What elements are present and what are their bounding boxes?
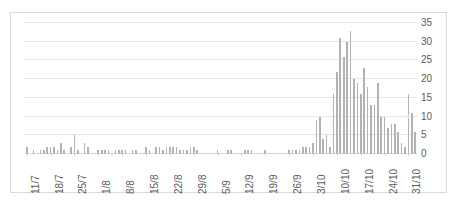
x-tick-label-22-8: 22/8 (174, 175, 184, 194)
bar (292, 150, 294, 154)
bar (40, 150, 42, 154)
bar (183, 150, 185, 154)
bar (370, 105, 372, 154)
bar (316, 120, 318, 154)
x-tick-label-26-9: 26/9 (293, 175, 303, 194)
bar (353, 79, 355, 154)
bar (179, 150, 181, 154)
x-tick-label-24-10: 24/10 (389, 169, 399, 194)
bar (125, 150, 127, 154)
x-tickmark (265, 153, 266, 156)
bar (132, 150, 134, 154)
x-tick-label-3-10: 3/10 (317, 175, 327, 194)
y-tick-label-20: 20 (421, 74, 447, 84)
bar (360, 94, 362, 154)
bar (401, 143, 403, 154)
x-tickmark (241, 153, 242, 156)
bar (414, 132, 416, 154)
x-tickmark (385, 153, 386, 156)
x-tick-label-25-7: 25/7 (78, 175, 88, 194)
x-tickmark (122, 153, 123, 156)
bar (104, 150, 106, 154)
x-tickmark (313, 153, 314, 156)
bar (70, 147, 72, 154)
bar (176, 147, 178, 154)
bar (357, 83, 359, 154)
bar (380, 117, 382, 154)
x-tick-label-12-9: 12/9 (245, 175, 255, 194)
bar (190, 147, 192, 154)
bar (309, 147, 311, 154)
y-tick-label-5: 5 (421, 130, 447, 140)
x-tickmark (146, 153, 147, 156)
bar (329, 147, 331, 154)
bar (149, 150, 151, 154)
x-tick-label-17-10: 17/10 (365, 169, 375, 194)
x-tick-label-8-8: 8/8 (126, 180, 136, 194)
x-tickmark (218, 153, 219, 156)
x-tickmark (98, 153, 99, 156)
bar (118, 150, 120, 154)
bar (404, 147, 406, 154)
bar (411, 113, 413, 154)
x-tickmark (27, 153, 28, 156)
x-tick-label-1-8: 1/8 (102, 180, 112, 194)
bar (60, 143, 62, 154)
y-axis: 05101520253035 (421, 13, 451, 163)
bar (166, 147, 168, 154)
bar (230, 150, 232, 154)
x-tick-label-10-10: 10/10 (341, 169, 351, 194)
y-tick-label-35: 35 (421, 18, 447, 28)
x-tick-label-5-9: 5/9 (222, 180, 232, 194)
y-tick-label-25: 25 (421, 55, 447, 65)
x-tickmark (51, 153, 52, 156)
bar (343, 57, 345, 154)
plot-area (25, 23, 417, 154)
bar (363, 68, 365, 154)
bar (244, 150, 246, 154)
bar (33, 150, 35, 154)
bar (295, 150, 297, 154)
bar (101, 150, 103, 154)
x-tickmark (408, 153, 409, 156)
bar (108, 150, 110, 154)
x-tick-label-19-9: 19/9 (269, 175, 279, 194)
bar (336, 72, 338, 154)
bar (77, 150, 79, 154)
y-tick-label-30: 30 (421, 37, 447, 47)
x-tickmark (289, 153, 290, 156)
bar (319, 117, 321, 154)
bar (84, 143, 86, 154)
bar (155, 147, 157, 154)
bar (172, 147, 174, 154)
bar (387, 128, 389, 154)
bar (305, 147, 307, 154)
bar (53, 147, 55, 154)
x-tickmark (170, 153, 171, 156)
x-tickmark (194, 153, 195, 156)
bar (159, 147, 161, 154)
x-tickmark (337, 153, 338, 156)
bar (115, 150, 117, 154)
bar (87, 147, 89, 154)
bar (397, 132, 399, 154)
bar (333, 94, 335, 154)
bar (322, 139, 324, 154)
x-axis: 11/718/725/71/88/815/822/829/85/912/919/… (25, 156, 417, 196)
bar (377, 83, 379, 154)
bar (186, 150, 188, 154)
bar (43, 150, 45, 154)
artifact-dot (406, 115, 409, 118)
x-tick-label-31-10: 31/10 (412, 169, 422, 194)
bar (350, 31, 352, 155)
x-tick-label-11-7: 11/7 (31, 175, 41, 194)
x-tick-label-15-8: 15/8 (150, 175, 160, 194)
bar (384, 117, 386, 154)
y-tick-label-0: 0 (421, 149, 447, 159)
x-tick-label-18-7: 18/7 (55, 175, 65, 194)
bar (247, 150, 249, 154)
x-tickmark (361, 153, 362, 156)
bar (302, 147, 304, 154)
chart-frame: 05101520253035 11/718/725/71/88/815/822/… (10, 12, 447, 193)
bar (46, 147, 48, 154)
